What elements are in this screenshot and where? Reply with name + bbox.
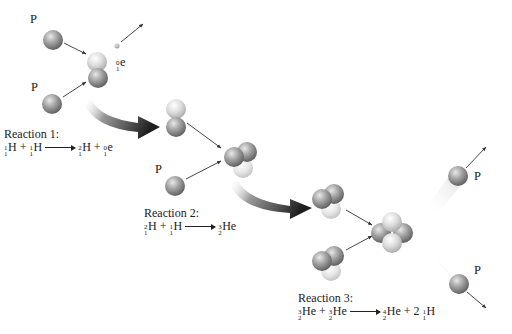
nuclide: 11H	[169, 220, 182, 236]
proton-label: P	[155, 163, 162, 176]
proton-label: P	[31, 81, 38, 94]
reaction-arrow-icon	[45, 147, 75, 148]
curved-arrow-icon	[230, 180, 312, 219]
proton-label: P	[474, 264, 481, 277]
nuclide: 11H	[29, 141, 42, 157]
reaction-1-graphic	[42, 24, 143, 114]
coefficient: 2	[414, 304, 420, 318]
positron-label: 01e	[116, 56, 126, 72]
neutron-sphere	[382, 212, 402, 232]
proton-label: P	[474, 170, 481, 183]
nuclide: 01e	[104, 141, 113, 157]
arrow-line	[346, 236, 372, 250]
arrow-line	[466, 147, 486, 168]
neutron-sphere	[166, 99, 186, 119]
proton-sphere	[165, 176, 185, 196]
nuclide: 32He	[329, 305, 347, 321]
proton-sphere	[224, 147, 244, 167]
arrow-line	[121, 24, 143, 42]
nuclide: 32He	[298, 305, 316, 321]
proton-sphere	[88, 68, 108, 88]
proton-sphere	[449, 274, 469, 294]
proton-sphere	[312, 189, 332, 209]
arrow-line	[346, 210, 372, 225]
nuclide: 21H	[78, 141, 91, 157]
nuclide: 11H	[423, 305, 436, 321]
nuclide: 42He	[383, 305, 401, 321]
proton-sphere	[42, 94, 62, 114]
proton-sphere	[43, 30, 63, 50]
reaction-arrow-icon	[185, 226, 215, 227]
positron-particle	[115, 44, 120, 49]
proton-sphere	[166, 117, 186, 137]
reaction-3-equation: Reaction 3: 32He + 32He42He + 2 11H	[298, 292, 435, 321]
reaction-2-graphic	[165, 99, 257, 196]
fusion-diagram	[0, 0, 512, 334]
proton-label: P	[30, 13, 37, 26]
reaction-3-graphic	[312, 147, 486, 308]
neutron-sphere	[382, 233, 402, 253]
arrow-line	[187, 123, 221, 148]
reaction-arrow-icon	[350, 311, 380, 312]
nuclide: 21H	[144, 220, 157, 236]
arrow-line	[63, 82, 86, 97]
proton-sphere	[312, 251, 332, 271]
arrow-line	[186, 161, 221, 179]
reaction-2-equation: Reaction 2: 21H + 11H32He	[144, 207, 236, 236]
arrow-line	[467, 292, 486, 308]
reaction-1-equation: Reaction 1: 11H + 11H21H + 01e	[4, 128, 113, 157]
arrow-line	[64, 43, 86, 54]
proton-sphere	[448, 166, 468, 186]
nuclide: 11H	[4, 141, 17, 157]
nuclide: 32He	[218, 220, 236, 236]
